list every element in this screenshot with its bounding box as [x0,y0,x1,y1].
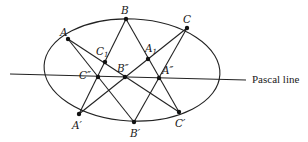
point-A1 [146,57,150,61]
label-A-prime: A′ [71,119,83,131]
label-C-double-prime: C″ [79,69,91,81]
label-B-double-prime: B″ [116,62,129,74]
label-A1: A1 [144,42,157,56]
point-C [185,26,189,30]
label-C-prime: C′ [175,117,186,129]
point-Cpp [96,75,100,79]
label-C1: C1 [96,45,109,59]
label-C: C [183,13,191,25]
point-Ap [77,112,81,116]
point-C1 [103,60,107,64]
point-Bp [132,120,136,124]
point-App [157,76,161,80]
label-B-prime: B′ [129,127,141,139]
conic-ellipse [41,14,222,125]
label-A-double-prime: A″ [161,64,174,76]
segment-C-Bp [134,28,187,122]
label-A: A [59,26,68,38]
pascal-diagram: A B C C1 A1 C″ B″ A″ A′ B′ C′ Pascal lin… [0,0,308,142]
label-B: B [120,4,129,16]
point-B [124,17,128,21]
point-Bpp [123,75,127,79]
point-Cp [177,110,181,114]
pascal-line-label: Pascal line [252,73,299,85]
point-labels: A B C C1 A1 C″ B″ A″ A′ B′ C′ Pascal lin… [59,4,299,139]
